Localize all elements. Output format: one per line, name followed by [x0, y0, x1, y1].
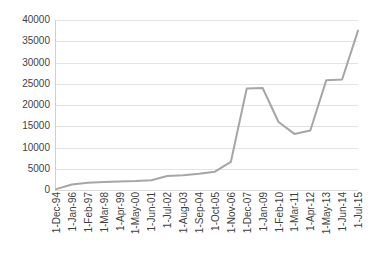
x-tick-label-text: 1-Jun-01: [147, 192, 157, 231]
x-tick-label: 1-Nov-06: [227, 192, 237, 233]
x-tick-label: 1-Aug-03: [179, 192, 189, 233]
x-tick-label: 1-Oct-05: [211, 192, 221, 231]
x-tick-label-text: 1-Jul-15: [354, 192, 364, 228]
x-tick-label-text: 1-Mar-98: [100, 192, 110, 233]
series-line: [56, 20, 358, 190]
y-tick-label: 40000: [0, 15, 50, 25]
x-tick-label: 1-May-00: [131, 192, 141, 234]
x-tick-label-text: 1-Aug-03: [179, 192, 189, 233]
x-tick-label-text: 1-Sep-04: [195, 192, 205, 233]
y-tick-label: 25000: [0, 79, 50, 89]
x-tick-label: 1-Apr-12: [306, 192, 316, 231]
x-tick-label: 1-Apr-99: [116, 192, 126, 231]
x-axis-tick-labels: 1-Dec-941-Jan-961-Feb-971-Mar-981-Apr-99…: [56, 192, 358, 267]
x-tick-label-text: 1-Dec-94: [52, 192, 62, 233]
x-tick-label-text: 1-May-00: [131, 192, 141, 234]
x-tick-label: 1-Feb-10: [275, 192, 285, 233]
y-tick-label: 0: [0, 185, 50, 195]
y-tick-label: 15000: [0, 121, 50, 131]
x-tick-label-text: 1-Feb-10: [275, 192, 285, 233]
y-tick-label: 20000: [0, 100, 50, 110]
x-tick-label: 1-Feb-97: [84, 192, 94, 233]
x-tick-label: 1-Jul-15: [354, 192, 364, 228]
y-axis-tick-labels: 0500010000150002000025000300003500040000: [0, 0, 50, 267]
x-tick-label-text: 1-Jul-02: [163, 192, 173, 228]
series-polyline: [56, 31, 358, 190]
x-tick-label: 1-Mar-98: [100, 192, 110, 233]
x-tick-label: 1-Jan-96: [68, 192, 78, 231]
x-tick-label-text: 1-Dec-07: [243, 192, 253, 233]
x-tick-label-text: 1-Jun-14: [338, 192, 348, 231]
x-tick-label: 1-Dec-07: [243, 192, 253, 233]
x-tick-label: 1-Jun-01: [147, 192, 157, 231]
plot-area: [56, 20, 358, 190]
x-tick-label-text: 1-Jan-96: [68, 192, 78, 231]
x-tick-label-text: 1-Apr-12: [306, 192, 316, 231]
x-tick-label: 1-Jan-09: [259, 192, 269, 231]
x-tick-label: 1-May-13: [322, 192, 332, 234]
y-tick-label: 30000: [0, 58, 50, 68]
x-tick-label-text: 1-Nov-06: [227, 192, 237, 233]
y-tick-label: 5000: [0, 164, 50, 174]
x-tick-label-text: 1-Jan-09: [259, 192, 269, 231]
x-tick-label-text: 1-Apr-99: [116, 192, 126, 231]
x-tick-label: 1-Mar-11: [290, 192, 300, 232]
x-tick-label: 1-Dec-94: [52, 192, 62, 233]
x-tick-label-text: 1-Oct-05: [211, 192, 221, 231]
y-tick-label: 10000: [0, 143, 50, 153]
x-tick-label: 1-Jul-02: [163, 192, 173, 228]
x-tick-label-text: 1-Mar-11: [290, 192, 300, 232]
x-tick-label: 1-Sep-04: [195, 192, 205, 233]
line-chart: 0500010000150002000025000300003500040000…: [0, 0, 380, 267]
x-tick-label-text: 1-Feb-97: [84, 192, 94, 233]
x-tick-label-text: 1-May-13: [322, 192, 332, 234]
x-tick-label: 1-Jun-14: [338, 192, 348, 231]
y-tick-label: 35000: [0, 36, 50, 46]
